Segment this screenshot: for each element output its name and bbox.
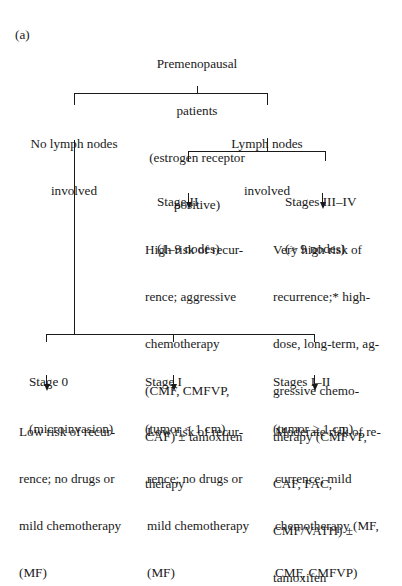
outcome-line: (MF)	[19, 565, 121, 581]
connector	[74, 140, 75, 335]
outcome-line: mild chemotherapy	[19, 518, 121, 534]
outcome-line: Low risk of recur-	[19, 424, 121, 440]
connector	[314, 334, 315, 342]
node-line: Stage I	[145, 374, 225, 390]
node-line: Stage 0	[29, 374, 113, 390]
connector	[188, 151, 326, 152]
stage-i-outcome: Low risk of recur- rence; no drugs or mi…	[147, 393, 249, 586]
stage-0-outcome: Low risk of recur- rence; no drugs or mi…	[19, 393, 121, 586]
outcome-line: chemotherapy (MF,	[275, 518, 381, 534]
root-line: Premenopausal	[127, 56, 267, 72]
connector	[46, 334, 47, 342]
outcome-line: High risk of recur-	[145, 242, 243, 258]
outcome-line: Very high risk of	[273, 242, 379, 258]
arrow-down-icon	[320, 202, 326, 209]
outcome-line: Moderate risk of re-	[275, 424, 381, 440]
outcome-line: rence; aggressive	[145, 289, 243, 305]
connector	[188, 151, 189, 161]
connector	[74, 93, 75, 105]
outcome-line: mild chemotherapy	[147, 518, 249, 534]
outcome-line: Low risk of recur-	[147, 424, 249, 440]
arrow-down-icon	[186, 202, 192, 209]
outcome-line: (MF)	[147, 565, 249, 581]
outcome-line: recurrence;* high-	[273, 289, 379, 305]
panel-label: (a)	[15, 27, 30, 43]
outcome-line: rence; no drugs or	[19, 471, 121, 487]
connector	[46, 334, 315, 335]
connector	[74, 93, 268, 94]
outcome-line: rence; no drugs or	[147, 471, 249, 487]
arrow-down-icon	[44, 384, 50, 391]
stage-i-ii-outcome: Moderate risk of re- currence; mild chem…	[275, 393, 381, 586]
arrow-down-icon	[171, 384, 177, 391]
connector	[173, 334, 174, 342]
outcome-line: currence; mild	[275, 471, 381, 487]
arrow-down-icon	[312, 384, 318, 391]
outcome-line: CMF, CMFVP)	[275, 565, 381, 581]
connector	[267, 93, 268, 105]
connector	[267, 138, 268, 152]
connector	[325, 151, 326, 161]
